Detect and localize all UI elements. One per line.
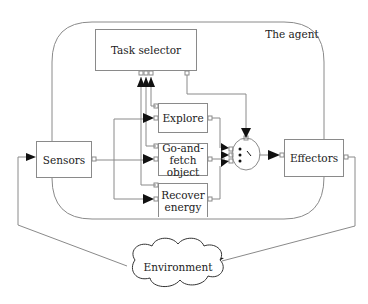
go-and-fetch-label-line3: object: [167, 166, 200, 178]
task-selector-label: Task selector: [111, 44, 181, 56]
go-and-fetch-label-line2: fetch: [170, 154, 197, 166]
go-and-fetch-block: Go-and- fetch object: [158, 143, 208, 176]
recover-energy-label-line1: Recover: [161, 189, 205, 201]
recover-energy-block: Recover energy: [158, 183, 208, 217]
sensors-label: Sensors: [43, 154, 85, 166]
recover-energy-label-line2: energy: [165, 201, 202, 213]
task-selector-block: Task selector: [95, 29, 197, 71]
agent-architecture-diagram: The agent Task selector Sensors Effector…: [0, 0, 368, 304]
effectors-label: Effectors: [290, 152, 338, 164]
sensors-block: Sensors: [36, 141, 92, 178]
environment-label: Environment: [140, 261, 216, 273]
explore-label: Explore: [162, 112, 203, 124]
explore-block: Explore: [158, 103, 208, 133]
go-and-fetch-label-line1: Go-and-: [162, 142, 204, 154]
agent-label: The agent: [262, 28, 322, 40]
effectors-block: Effectors: [284, 139, 344, 177]
